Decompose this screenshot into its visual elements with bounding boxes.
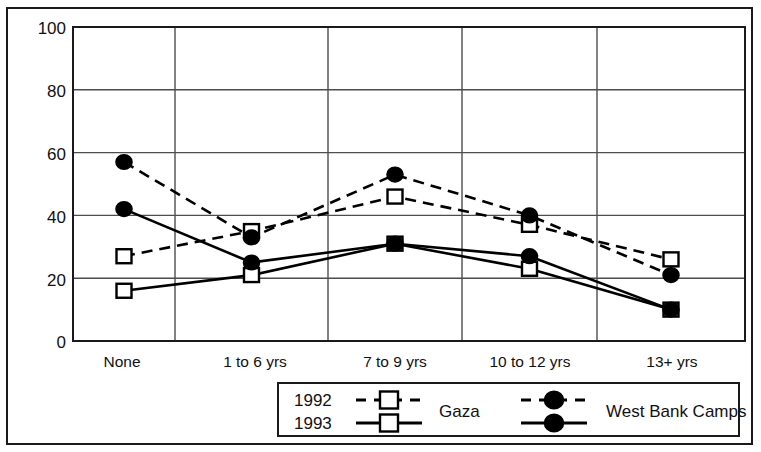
- legend: 1992 1993 Gaza West Bank Camps: [277, 382, 740, 437]
- legend-sample-lines: [279, 384, 742, 439]
- plot-border: [73, 27, 745, 341]
- chart-figure: 100 80 60 40 20 0 None 1 to 6 yrs 7 to 9…: [0, 0, 761, 452]
- data-series-group: [116, 155, 679, 317]
- gridlines: [73, 27, 745, 341]
